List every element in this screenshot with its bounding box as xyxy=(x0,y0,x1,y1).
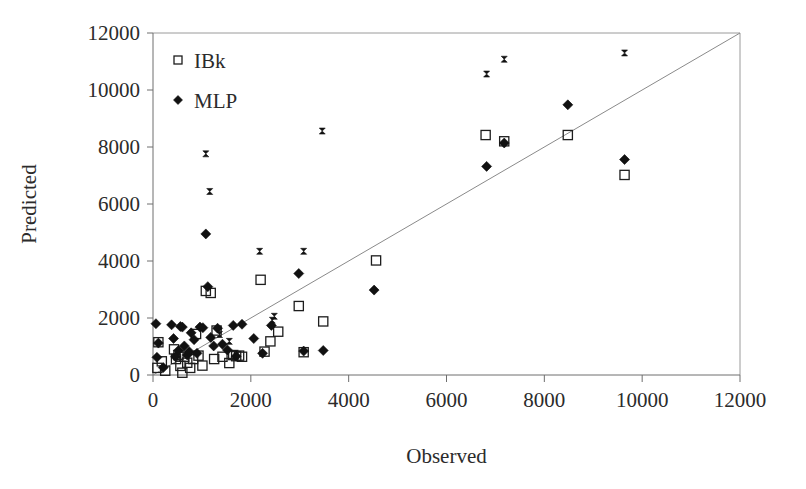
x-tick-label: 0 xyxy=(148,388,159,412)
point-ibk xyxy=(620,170,629,179)
y-tick-label: 10000 xyxy=(88,78,141,102)
point-ibk xyxy=(198,361,207,370)
point-ibk xyxy=(294,301,303,310)
legend-marker-open-square xyxy=(174,56,182,64)
x-tick-label: 6000 xyxy=(426,388,468,412)
point-overlap xyxy=(226,338,232,344)
point-mlp xyxy=(318,345,328,355)
point-ibk xyxy=(371,256,380,265)
point-overlap xyxy=(271,313,277,319)
point-mlp xyxy=(151,319,161,329)
y-tick-label: 0 xyxy=(130,363,141,387)
point-overlap xyxy=(203,151,209,157)
point-mlp xyxy=(203,282,213,292)
point-mlp xyxy=(167,320,177,330)
legend-label: MLP xyxy=(194,89,237,113)
y-tick-label: 8000 xyxy=(98,135,140,159)
point-overlap xyxy=(319,128,325,134)
point-overlap xyxy=(257,248,263,254)
x-tick-label: 2000 xyxy=(230,388,272,412)
legend-label: IBk xyxy=(194,49,226,73)
legend-marker-filled-diamond xyxy=(174,96,183,105)
x-axis-title: Observed xyxy=(406,444,487,468)
legend-item: MLP xyxy=(174,89,238,113)
y-axis-title: Predicted xyxy=(17,164,41,244)
legend-item: IBk xyxy=(174,49,226,73)
point-mlp xyxy=(620,155,630,165)
x-tick-label: 4000 xyxy=(328,388,370,412)
series-ibk xyxy=(153,130,629,377)
point-ibk xyxy=(319,317,328,326)
y-tick-label: 4000 xyxy=(98,249,140,273)
point-mlp xyxy=(482,161,492,171)
point-ibk xyxy=(256,275,265,284)
point-mlp xyxy=(206,332,216,342)
point-overlap xyxy=(207,188,213,194)
point-overlap xyxy=(501,56,507,62)
x-tick-label: 8000 xyxy=(523,388,565,412)
point-ibk xyxy=(481,130,490,139)
y-tick-label: 2000 xyxy=(98,306,140,330)
point-mlp xyxy=(563,100,573,110)
point-mlp xyxy=(249,334,259,344)
point-overlap xyxy=(622,50,628,56)
x-tick-label: 12000 xyxy=(714,388,767,412)
scatter-plot-figure: 0200040006000800010000120000200040006000… xyxy=(0,0,806,489)
y-tick-label: 6000 xyxy=(98,192,140,216)
point-ibk xyxy=(274,327,283,336)
point-mlp xyxy=(228,320,238,330)
x-tick-label: 10000 xyxy=(616,388,669,412)
point-mlp xyxy=(169,334,179,344)
axis-titles: ObservedPredicted xyxy=(17,164,487,468)
point-ibk xyxy=(266,337,275,346)
y-tick-label: 12000 xyxy=(88,21,141,45)
plot-canvas: 0200040006000800010000120000200040006000… xyxy=(0,0,806,489)
point-mlp xyxy=(266,320,276,330)
point-mlp xyxy=(294,269,304,279)
point-overlap xyxy=(484,71,490,77)
point-mlp xyxy=(201,229,211,239)
point-mlp xyxy=(369,285,379,295)
chart-legend: IBkMLP xyxy=(174,49,238,113)
point-overlap xyxy=(301,248,307,254)
point-mlp xyxy=(209,341,219,351)
series-overlap xyxy=(203,50,628,344)
